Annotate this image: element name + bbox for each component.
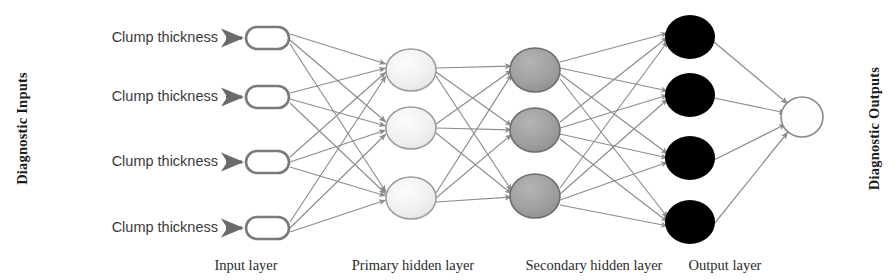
output-node-1 — [665, 15, 715, 59]
input-node-3 — [246, 151, 289, 173]
output-layer-nodes — [665, 15, 715, 244]
layer-label-primary-hidden: Primary hidden layer — [318, 257, 508, 274]
left-axis-label: Diagnostic Inputs — [14, 69, 31, 189]
output-node-3 — [665, 136, 715, 180]
layer-label-output: Output layer — [655, 257, 795, 274]
neural-network-diagram: Diagnostic Inputs Diagnostic Outputs Clu… — [0, 0, 895, 280]
input-layer-nodes — [246, 27, 289, 239]
input-label-3: Clump thickness — [58, 153, 218, 169]
output-node-4 — [665, 200, 715, 244]
primary-hidden-node-2 — [386, 107, 436, 149]
right-axis-label: Diagnostic Outputs — [866, 54, 883, 204]
secondary-hidden-layer-nodes — [510, 48, 560, 218]
primary-hidden-node-3 — [386, 177, 436, 219]
final-output-node — [781, 97, 823, 137]
primary-hidden-node-1 — [386, 49, 436, 91]
secondary-hidden-node-3 — [510, 174, 560, 218]
input-label-4: Clump thickness — [58, 219, 218, 235]
edges-input-to-primary — [290, 34, 386, 232]
secondary-hidden-node-1 — [510, 48, 560, 92]
output-node-2 — [665, 73, 715, 117]
edges-primary-to-secondary — [436, 66, 512, 202]
input-feed-arrows — [226, 38, 242, 228]
edges-output-to-final — [714, 42, 788, 224]
edges-secondary-to-output — [560, 33, 668, 226]
input-node-1 — [246, 27, 289, 49]
input-node-2 — [246, 86, 289, 108]
final-output-node-group — [781, 97, 823, 137]
primary-hidden-layer-nodes — [386, 49, 436, 219]
input-label-2: Clump thickness — [58, 88, 218, 104]
input-label-1: Clump thickness — [58, 29, 218, 45]
input-node-4 — [246, 217, 289, 239]
secondary-hidden-node-2 — [510, 108, 560, 152]
layer-label-input: Input layer — [186, 257, 306, 274]
